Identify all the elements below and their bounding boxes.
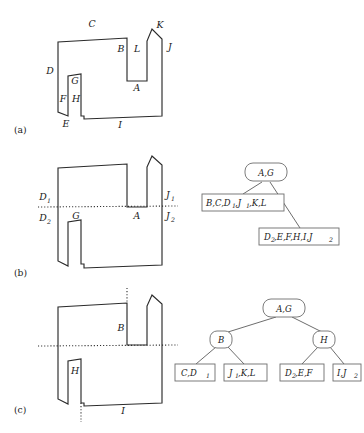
label-c-B: B — [117, 322, 125, 333]
tree-c-root-label: A,G — [275, 304, 292, 314]
tree-c-leaf1-main: C,D — [181, 368, 197, 378]
figure-svg: C D B L K J A G F H E I (a) D 1 D — [0, 0, 364, 433]
tree-b-left-tail: ,K,L — [249, 198, 267, 208]
label-c-H: H — [70, 365, 80, 376]
tree-c-link-B-right — [228, 347, 244, 364]
label-a-E: E — [62, 118, 70, 129]
cut-line-c-horizontal — [38, 345, 178, 346]
tree-c-leaf4-sub: 2 — [353, 372, 358, 379]
tree-c-leaf3-tail: ,E,F — [295, 368, 314, 378]
label-a-A: A — [133, 82, 141, 93]
label-a-D: D — [45, 65, 54, 76]
label-b-D2-sub: 2 — [46, 218, 51, 225]
label-a-H: H — [71, 93, 81, 104]
tree-c-node-B-label: B — [217, 335, 224, 345]
tree-c-link-B-left — [196, 347, 216, 364]
tree-b-right-main: D — [263, 232, 271, 242]
tree-b: A,G B,C,D 1 ,J 1 ,K,L D 2 ,E,F,H,I,J 2 — [202, 163, 339, 245]
tree-c-link-root-left — [228, 317, 276, 332]
tree-c-node-H-label: H — [319, 335, 328, 345]
label-b-J1: J 1 — [164, 189, 175, 202]
label-b-D1-sub: 1 — [47, 197, 51, 204]
panel-tag-c: (c) — [14, 404, 26, 415]
figure-container: C D B L K J A G F H E I (a) D 1 D — [0, 0, 364, 433]
label-b-G: G — [72, 210, 80, 221]
tree-b-left-mid: ,J — [235, 198, 242, 208]
label-b-A: A — [133, 210, 141, 221]
label-b-J1-sub: 1 — [171, 195, 175, 202]
tree-b-root-label: A,G — [257, 168, 274, 178]
label-b-D2-main: D — [38, 212, 47, 223]
tree-c-link-H-left — [302, 347, 318, 364]
polygon-a-outline — [58, 29, 162, 119]
label-a-J: J — [166, 41, 173, 52]
label-a-F: F — [59, 93, 67, 104]
panel-c: B H I (c) — [14, 288, 178, 422]
tree-c-leaf2-tail: ,K,L — [238, 368, 256, 378]
cut-line-b-horizontal — [38, 206, 178, 207]
label-b-J2: J 2 — [164, 210, 175, 223]
label-a-B: B — [117, 43, 125, 54]
label-b-J2-sub: 2 — [170, 216, 175, 223]
label-b-D1-main: D — [38, 191, 47, 202]
tree-c: A,G B H C,D 1 J 1 ,K,L D 2 , — [175, 299, 361, 381]
tree-c-link-root-right — [292, 317, 322, 332]
label-a-K: K — [155, 19, 164, 30]
tree-b-right-sub2: 2 — [328, 236, 333, 243]
label-a-L: L — [133, 43, 140, 54]
panel-b: D 1 D 2 J 1 J 2 G A (b) — [14, 156, 178, 278]
label-a-I: I — [117, 119, 122, 130]
tree-c-link-H-right — [330, 347, 344, 364]
label-c-I: I — [120, 405, 125, 416]
tree-c-leaf2-label: J 1 ,K,L — [227, 368, 256, 379]
panel-tag-a: (a) — [14, 124, 27, 135]
tree-b-link-left — [243, 182, 262, 194]
polygon-c-outline — [58, 295, 162, 406]
tree-c-leaf4-main: I,J — [336, 368, 347, 378]
tree-c-leaf1-sub: 1 — [206, 372, 210, 379]
tree-b-right-mid: ,E,F,H,I,J — [274, 232, 313, 242]
tree-b-left-label: B,C,D 1 ,J 1 ,K,L — [205, 198, 267, 209]
label-b-D2: D 2 — [38, 212, 51, 225]
label-a-G: G — [71, 75, 79, 86]
panel-a: C D B L K J A G F H E I (a) — [14, 18, 173, 135]
label-b-D1: D 1 — [38, 191, 51, 204]
tree-c-leaf3-label: D 2 ,E,F — [284, 368, 314, 379]
tree-b-left-main: B,C,D — [205, 198, 231, 208]
label-a-C: C — [88, 18, 95, 29]
panel-tag-b: (b) — [14, 267, 27, 278]
tree-c-leaf3-main: D — [284, 368, 292, 378]
